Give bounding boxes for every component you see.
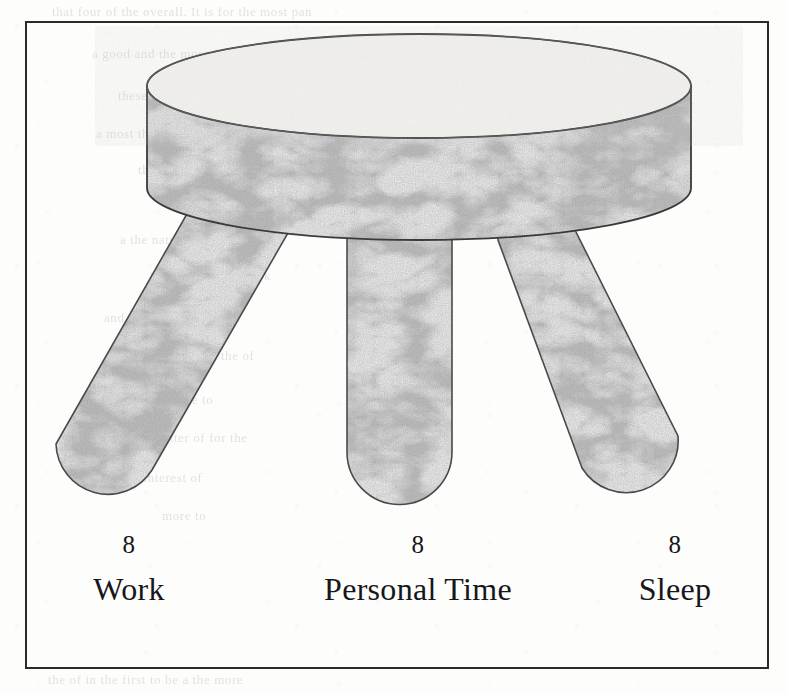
value-personal-time: 8 xyxy=(253,530,583,560)
label-work: Work xyxy=(39,568,219,610)
label-sleep: Sleep xyxy=(595,568,755,610)
label-personal-time: Personal Time xyxy=(253,568,583,610)
bleed-through-line: the of in the first to be a the more xyxy=(48,672,243,688)
value-work: 8 xyxy=(39,530,219,560)
scanned-figure-page: that four of the overall. It is for the … xyxy=(0,0,787,694)
caption-sleep: 8 Sleep xyxy=(595,530,755,610)
caption-personal-time: 8 Personal Time xyxy=(253,530,583,610)
caption-work: 8 Work xyxy=(39,530,219,610)
stool-captions: 8 Work 8 Personal Time 8 Sleep xyxy=(25,530,769,640)
bleed-through-line: that four of the overall. It is for the … xyxy=(52,4,312,20)
value-sleep: 8 xyxy=(595,530,755,560)
